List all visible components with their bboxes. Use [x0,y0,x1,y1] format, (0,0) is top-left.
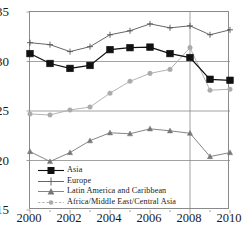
marker-europe-2008 [187,23,193,29]
line-chart: 35 30 25 20 15 2000 2002 2004 2006 2008 … [0,0,243,240]
marker-africa-middle-east-central-asia-2001 [48,113,53,118]
series-africa-middle-east-central-asia [28,45,233,117]
marker-asia-2008 [187,54,194,61]
marker-africa-middle-east-central-asia-2000 [28,112,33,117]
filled-circle-icon [38,197,64,208]
marker-asia-2001 [47,60,54,67]
marker-asia-2000 [27,50,34,57]
marker-asia-2004 [107,46,114,53]
legend-label-africa: Africa/Middle East/Central Asia [67,197,176,208]
series-line-asia [30,47,230,80]
marker-latin-america-and-caribbean-2002 [67,150,72,155]
marker-africa-middle-east-central-asia-2009 [208,88,213,93]
y-axis-tick-20: 20 [0,160,9,173]
marker-asia-2006 [147,44,154,51]
marker-africa-middle-east-central-asia-2007 [168,67,173,72]
marker-europe-2001 [47,42,53,48]
x-axis-tick-2010: 2010 [206,212,243,225]
legend-item-africa: Africa/Middle East/Central Asia [38,197,188,208]
marker-europe-2004 [107,32,113,38]
marker-latin-america-and-caribbean-2001 [47,159,52,164]
y-axis-tick-30: 30 [0,61,9,74]
legend-item-europe: Europe [38,176,188,187]
marker-africa-middle-east-central-asia-2004 [108,91,113,96]
marker-europe-2010 [227,27,233,33]
marker-asia-2005 [127,44,134,51]
marker-asia-2003 [87,62,94,69]
y-axis-tick-25: 25 [0,110,9,123]
marker-asia-2010 [227,77,234,84]
marker-asia-2002 [67,65,74,72]
legend-label-latin-america: Latin America and Caribbean [67,186,166,197]
marker-latin-america-and-caribbean-2006 [147,126,152,131]
marker-africa-middle-east-central-asia-2008 [188,45,193,50]
marker-europe-2000 [27,40,33,46]
series-latin-america-and-caribbean [27,126,232,163]
marker-latin-america-and-caribbean-2000 [27,149,32,154]
series-layer [27,21,234,164]
filled-triangle-icon [38,186,64,197]
marker-asia-2009 [207,76,214,83]
series-asia [27,44,234,84]
marker-europe-2003 [87,44,93,50]
marker-europe-2007 [167,25,173,31]
marker-asia-2007 [167,50,174,57]
marker-africa-middle-east-central-asia-2002 [68,108,73,113]
filled-square-icon [38,165,64,176]
marker-africa-middle-east-central-asia-2006 [148,71,153,76]
marker-africa-middle-east-central-asia-2010 [228,87,233,92]
marker-africa-middle-east-central-asia-2005 [128,79,133,84]
y-axis-tick-35: 35 [0,11,9,24]
legend-label-asia: Asia [67,165,82,176]
legend-item-asia: Asia [38,165,188,176]
marker-europe-2006 [147,21,153,27]
legend-item-latin-america: Latin America and Caribbean [38,186,188,197]
marker-europe-2009 [207,32,213,38]
marker-africa-middle-east-central-asia-2003 [88,105,93,110]
legend: Asia Europe Latin America and Caribbean [38,165,188,207]
marker-latin-america-and-caribbean-2010 [227,150,232,155]
plus-icon [38,176,64,187]
marker-europe-2005 [127,28,133,34]
legend-label-europe: Europe [67,176,91,187]
marker-europe-2002 [67,49,73,55]
